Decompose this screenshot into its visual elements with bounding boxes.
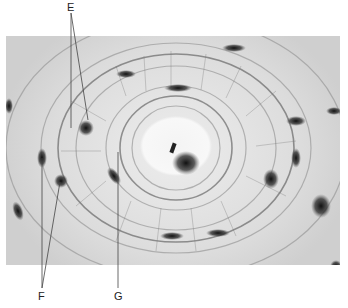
label-f: F [38, 290, 45, 302]
label-g: G [114, 290, 123, 302]
leader-line-f-2 [42, 182, 60, 288]
leader-line-e-2 [71, 13, 88, 120]
osteon-figure: E F G [0, 0, 348, 308]
label-leader-lines [0, 0, 348, 308]
label-e: E [67, 1, 74, 13]
